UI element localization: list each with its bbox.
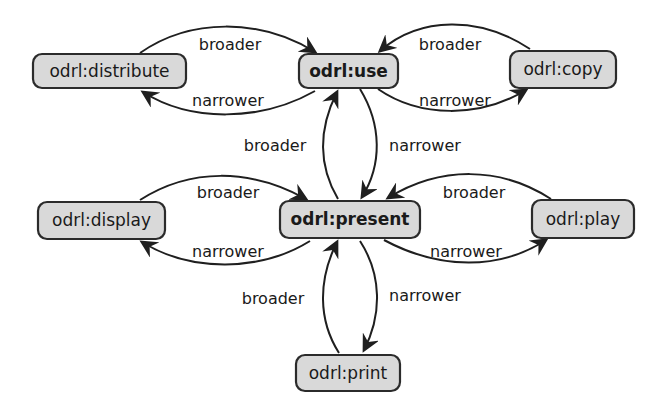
- edge-label-broader: broader: [244, 136, 307, 155]
- edge-present-use-broader: [323, 92, 338, 199]
- edge-label-narrower: narrower: [389, 286, 461, 305]
- node-play: odrl:play: [532, 200, 634, 238]
- node-print: odrl:print: [296, 355, 400, 391]
- edge-label-narrower: narrower: [389, 136, 461, 155]
- edge-label-broader: broader: [419, 35, 482, 54]
- node-label: odrl:print: [309, 363, 388, 383]
- node-label: odrl:present: [291, 209, 410, 229]
- node-label: odrl:use: [309, 61, 388, 81]
- edge-label-broader: broader: [197, 183, 260, 202]
- node-use: odrl:use: [299, 54, 398, 88]
- edge-label-narrower: narrower: [192, 242, 264, 261]
- node-label: odrl:display: [52, 210, 151, 230]
- edge-label-narrower: narrower: [419, 91, 491, 110]
- edge-label-broader: broader: [242, 289, 305, 308]
- edge-use-present-narrower: [360, 89, 377, 197]
- edge-present-print-narrower: [360, 241, 377, 350]
- edge-label-broader: broader: [443, 183, 506, 202]
- node-copy: odrl:copy: [510, 51, 616, 88]
- node-present: odrl:present: [280, 201, 420, 238]
- edge-label-broader: broader: [199, 35, 262, 54]
- edge-label-narrower: narrower: [192, 91, 264, 110]
- node-display: odrl:display: [38, 202, 165, 239]
- node-label: odrl:distribute: [49, 61, 169, 81]
- edge-label-narrower: narrower: [430, 242, 502, 261]
- edge-print-present-broader: [323, 242, 339, 353]
- node-label: odrl:copy: [523, 59, 602, 79]
- diagram-canvas: broader narrower broader narrower broade…: [0, 0, 667, 418]
- node-distribute: odrl:distribute: [33, 54, 186, 88]
- node-label: odrl:play: [546, 209, 621, 229]
